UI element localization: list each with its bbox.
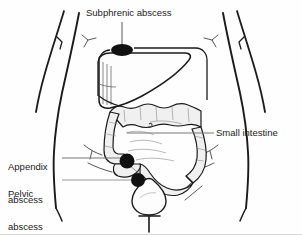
urethra bbox=[139, 216, 160, 232]
liver bbox=[99, 53, 190, 108]
left-arm bbox=[36, 11, 64, 112]
small-intestine bbox=[126, 121, 182, 161]
label-small-intestine: Small intestine bbox=[216, 127, 278, 138]
label-pelvic-abscess: Pelvic abscess bbox=[8, 166, 43, 235]
descending-colon bbox=[186, 127, 206, 183]
label-pelvic-line2: abscess bbox=[8, 221, 43, 232]
label-subphrenic-abscess: Subphrenic abscess bbox=[86, 7, 172, 18]
subphrenic-abscess-marker bbox=[111, 44, 133, 56]
transverse-colon bbox=[110, 104, 201, 128]
abdominal-abscess-diagram: Subphrenic abscess Small intestine Appen… bbox=[0, 0, 302, 235]
label-pelvic-line1: Pelvic bbox=[8, 188, 43, 199]
pelvic-abscess-marker bbox=[131, 173, 145, 187]
appendix-abscess-marker bbox=[120, 154, 135, 169]
